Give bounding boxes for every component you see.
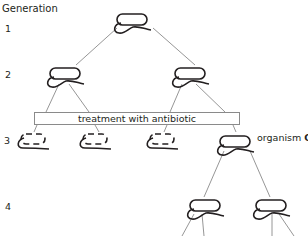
antibiotic-treatment-box: treatment with antibiotic bbox=[34, 112, 240, 125]
bacterium-gen1 bbox=[115, 14, 151, 33]
dead-bacterium-gen3-1 bbox=[18, 134, 49, 149]
dead-bacterium-gen3-2 bbox=[80, 134, 111, 149]
dead-bacterium-gen3-3 bbox=[147, 134, 178, 149]
bacterium-gen2-right bbox=[173, 68, 209, 87]
treatment-label: treatment with antibiotic bbox=[78, 114, 196, 124]
bacterium-gen2-left bbox=[48, 68, 84, 87]
connectors bbox=[34, 28, 294, 236]
organism-label-id: Q bbox=[304, 132, 308, 143]
organism-q-label: organism Q bbox=[257, 133, 308, 143]
organism-label-prefix: organism bbox=[257, 132, 304, 143]
